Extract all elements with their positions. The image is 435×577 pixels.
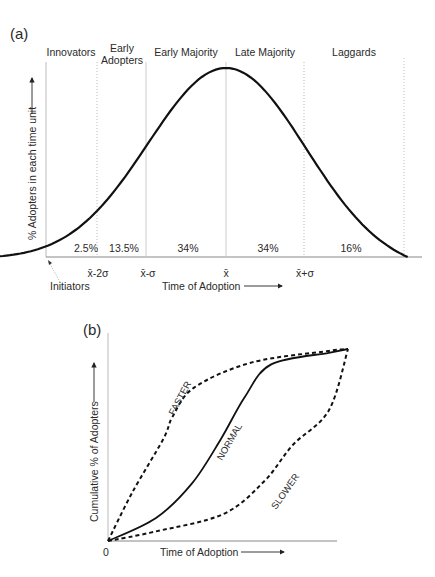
- panel-b-label: (b): [83, 321, 101, 338]
- curve-label-faster: FASTER: [166, 379, 193, 417]
- panel-a: (a) Innovators Early Adopters Early Majo…: [0, 25, 422, 292]
- share-innovators: 2.5%: [74, 242, 98, 254]
- initiators-label: Initiators: [50, 280, 90, 292]
- initiators-arrowhead-icon: [48, 260, 52, 265]
- panel-b-y-axis-label: Cumulative % of Adopters: [88, 401, 100, 522]
- share-early-adopters: 13.5%: [109, 242, 139, 254]
- tick-mean-minus-sd: x̄-σ: [140, 267, 156, 279]
- tick-mean: x̄: [223, 267, 229, 279]
- category-label-early-adopters-line2: Adopters: [101, 54, 143, 66]
- panel-a-y-axis-label: % Adopters in each time unit: [26, 107, 38, 240]
- tick-mean-minus-2sd: x̄-2σ: [87, 267, 109, 279]
- share-laggards: 16%: [340, 242, 361, 254]
- category-label-laggards: Laggards: [332, 46, 376, 58]
- curve-label-slower: SLOWER: [269, 471, 302, 511]
- panel-b-x-axis-label: Time of Adoption: [160, 546, 239, 558]
- initiators-pointer: [49, 262, 60, 282]
- category-label-early-adopters-line1: Early: [110, 42, 135, 54]
- category-label-late-majority: Late Majority: [235, 46, 296, 58]
- diffusion-figure: (a) Innovators Early Adopters Early Majo…: [0, 0, 435, 577]
- category-label-early-majority: Early Majority: [154, 46, 218, 58]
- category-label-innovators: Innovators: [46, 46, 95, 58]
- share-late-majority: 34%: [257, 242, 278, 254]
- panel-a-x-axis-label: Time of Adoption: [162, 280, 241, 292]
- tick-mean-plus-sd: x̄+σ: [296, 267, 314, 279]
- adoption-bell-curve: [0, 68, 408, 257]
- panel-b: (b) FASTER NORMAL SLOWER 0 Time of Adopt…: [83, 321, 348, 558]
- share-early-majority: 34%: [177, 242, 198, 254]
- panel-b-origin-label: 0: [103, 546, 109, 558]
- panel-a-label: (a): [10, 25, 28, 42]
